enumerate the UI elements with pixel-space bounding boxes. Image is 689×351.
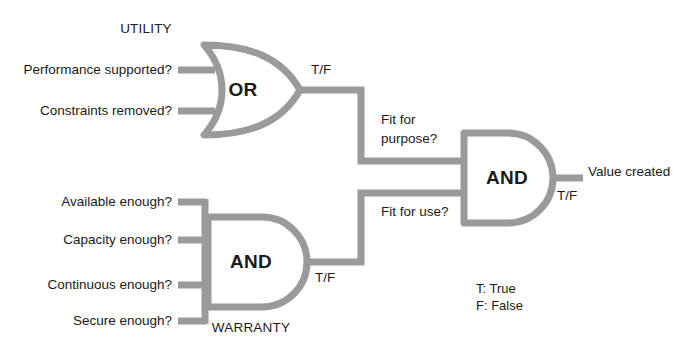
group-label-utility: UTILITY xyxy=(0,21,292,37)
warranty-and-gate-label: AND xyxy=(210,251,292,273)
group-label-warranty: WARRANTY xyxy=(196,320,306,336)
signal-label-or-output: T/F xyxy=(311,62,331,78)
final-output-label: Value created xyxy=(588,164,670,180)
intermediate-label-fit-for-purpose-line1: Fit for xyxy=(381,112,416,128)
signal-label-final-output: T/F xyxy=(557,188,577,204)
input-label-performance-supported: Performance supported? xyxy=(0,62,172,78)
or-gate-label: OR xyxy=(202,79,284,101)
intermediate-label-fit-for-purpose-line2: purpose? xyxy=(381,131,437,147)
input-label-continuous-enough: Continuous enough? xyxy=(0,277,172,293)
input-label-constraints-removed: Constraints removed? xyxy=(0,103,172,119)
legend-item-false: F: False xyxy=(476,299,523,314)
legend-item-true: T: True xyxy=(476,282,516,297)
logic-gate-svg xyxy=(0,0,689,351)
input-label-secure-enough: Secure enough? xyxy=(0,313,172,329)
input-label-capacity-enough: Capacity enough? xyxy=(0,232,172,248)
input-label-available-enough: Available enough? xyxy=(0,194,172,210)
intermediate-label-fit-for-use: Fit for use? xyxy=(381,204,449,220)
final-and-gate-label: AND xyxy=(466,167,548,189)
signal-label-warranty-output: T/F xyxy=(315,270,335,286)
logic-diagram-canvas: UTILITY Performance supported? Constrain… xyxy=(0,0,689,351)
